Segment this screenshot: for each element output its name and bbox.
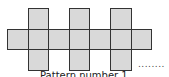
- square-cell: [48, 29, 70, 51]
- square-cell: [69, 49, 91, 71]
- square-cell: [69, 29, 91, 51]
- figure-caption: Pattern number 1: [40, 70, 128, 77]
- square-cell: [131, 29, 153, 51]
- square-cell: [28, 29, 50, 51]
- square-cell: [110, 49, 132, 71]
- square-cell: [69, 8, 91, 30]
- square-cell: [7, 29, 29, 51]
- continuation-dots: ........: [138, 60, 165, 69]
- square-cell: [89, 29, 111, 51]
- square-cell: [110, 8, 132, 30]
- square-cell: [28, 8, 50, 30]
- square-cell: [110, 29, 132, 51]
- square-cell: [28, 49, 50, 71]
